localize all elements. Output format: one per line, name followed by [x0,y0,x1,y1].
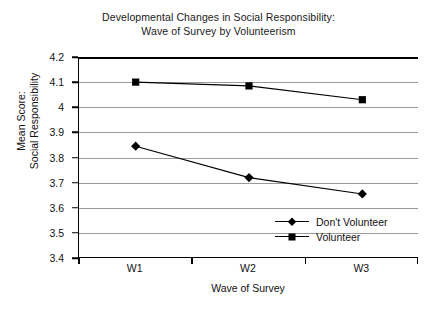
data-point-diamond [244,173,253,182]
y-axis-tick-label: 3.5 [49,227,64,239]
chart-title: Developmental Changes in Social Responsi… [0,10,437,38]
y-axis-tick-label: 3.7 [49,177,64,189]
data-point-square [245,82,252,89]
data-point-square [132,79,139,86]
x-axis-tick-label: W2 [191,262,304,278]
y-axis-tick-label: 3.8 [49,152,64,164]
page-caption-fragment [0,307,437,319]
legend-item-dont-volunteer[interactable]: Don't Volunteer [275,214,387,229]
legend-item-volunteer[interactable]: Volunteer [275,229,387,244]
data-point-diamond [358,189,367,198]
y-axis-tick-label: 3.9 [49,126,64,138]
square-marker-icon [275,231,309,243]
chart-legend: Don't Volunteer Volunteer [275,214,387,244]
chart-title-line-1: Developmental Changes in Social Responsi… [0,10,437,24]
legend-label-volunteer: Volunteer [316,231,360,243]
y-axis-tick-label: 4 [58,101,64,113]
y-axis-tick-label: 3.4 [49,252,64,264]
chart-title-line-2: Wave of Survey by Volunteerism [0,24,437,38]
y-axis-tick-label: 4.2 [49,51,64,63]
y-axis-tick-label: 4.1 [49,76,64,88]
x-axis-title: Wave of Survey [78,282,418,294]
y-axis-tick-label: 3.6 [49,202,64,214]
x-axis-tick-label: W1 [78,262,191,278]
y-axis-tick-labels: 4.24.143.93.83.73.63.53.4 [0,57,72,258]
legend-label-dont-volunteer: Don't Volunteer [316,216,387,228]
x-axis-tick-label: W3 [305,262,418,278]
data-point-diamond [131,142,140,151]
diamond-marker-icon [275,216,309,228]
x-axis-tick-labels: W1W2W3 [78,262,418,278]
series-line-1 [136,146,363,194]
data-point-square [359,96,366,103]
